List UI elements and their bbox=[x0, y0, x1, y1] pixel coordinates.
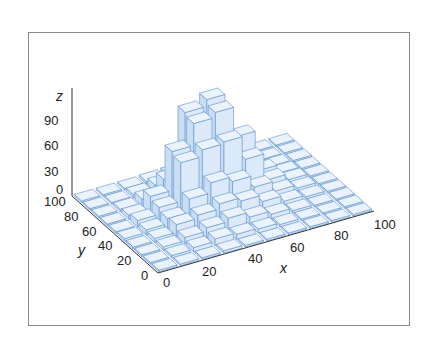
x-tick-100: 100 bbox=[374, 217, 396, 232]
x-tick-60: 60 bbox=[290, 240, 304, 255]
y-tick-0: 0 bbox=[141, 268, 148, 283]
y-tick-20: 20 bbox=[117, 253, 131, 268]
bars-group bbox=[74, 88, 371, 272]
x-tick-80: 80 bbox=[334, 228, 348, 243]
y-tick-60: 60 bbox=[82, 224, 96, 239]
z-tick-30: 30 bbox=[44, 164, 58, 179]
y-tick-40: 40 bbox=[98, 238, 112, 253]
z-tick-90: 90 bbox=[44, 113, 58, 128]
z-tick-60: 60 bbox=[44, 138, 58, 153]
y-tick-100: 100 bbox=[44, 194, 66, 209]
x-tick-20: 20 bbox=[202, 264, 216, 279]
y-tick-80: 80 bbox=[64, 209, 78, 224]
bar3d-chart: z 90 60 30 0 100 80 60 y 40 20 0 0 20 40… bbox=[0, 0, 436, 348]
x-axis-label: x bbox=[279, 260, 288, 276]
y-axis-label: y bbox=[77, 242, 86, 258]
x-tick-40: 40 bbox=[248, 251, 262, 266]
z-axis-label: z bbox=[55, 88, 63, 104]
x-tick-0: 0 bbox=[163, 275, 170, 290]
